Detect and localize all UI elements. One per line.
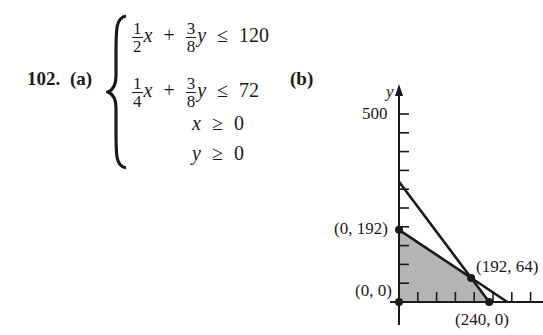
vertex-point <box>485 298 493 306</box>
y-axis-arrow-icon <box>395 84 403 96</box>
feasible-region-graph <box>0 0 543 335</box>
vertex-point <box>395 226 403 234</box>
point-label: (240, 0) <box>455 310 509 330</box>
vertex-point <box>395 298 403 306</box>
y-axis-label: y <box>386 82 394 102</box>
vertex-point <box>467 274 475 282</box>
point-label: (0, 0) <box>355 281 392 301</box>
y-tick-label: 500 <box>362 104 388 124</box>
point-label: (192, 64) <box>476 257 538 277</box>
point-label: (0, 192) <box>334 219 388 239</box>
